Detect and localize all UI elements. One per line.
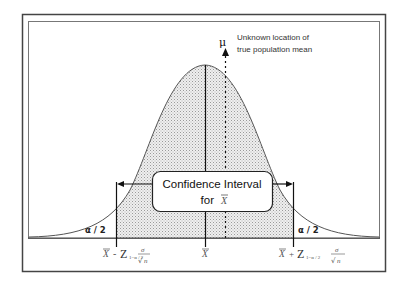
left-tail-label: α / 2 (85, 225, 106, 235)
sample-mean-label: X (201, 249, 209, 259)
svg-text:σ: σ (141, 246, 145, 254)
arrow-right-icon (286, 181, 293, 187)
svg-text:-: - (113, 248, 116, 259)
svg-text:+: + (289, 249, 294, 259)
svg-text:n: n (337, 257, 341, 265)
svg-text:Z: Z (120, 247, 127, 261)
svg-text:√: √ (331, 257, 336, 265)
svg-text:X: X (201, 249, 209, 259)
svg-text:X: X (102, 249, 110, 259)
lower-bound-label: X - Z 1−α / 2 σ √ n (102, 246, 150, 265)
mu-symbol: μ (219, 36, 226, 49)
mu-arrow-icon (222, 48, 229, 56)
svg-text:n: n (144, 257, 148, 265)
upper-bound-label: X + Z 1−α / 2 σ √ n (278, 246, 345, 265)
svg-text:X: X (278, 249, 286, 259)
arrow-left-icon (117, 181, 124, 187)
ci-label-line2-prefix: for (201, 194, 215, 206)
right-tail-label: α / 2 (298, 225, 319, 235)
svg-text:1−α / 2: 1−α / 2 (306, 255, 321, 260)
ci-label-xbar: X (220, 195, 228, 206)
svg-text:√: √ (138, 257, 143, 265)
confidence-interval-diagram: Confidence Interval for X μ Unknown loca… (0, 0, 407, 285)
svg-text:σ: σ (335, 246, 339, 254)
mu-note-line1: Unknown location of (237, 33, 310, 42)
svg-text:Z: Z (297, 247, 304, 261)
ci-label-line1: Confidence Interval (162, 178, 261, 190)
mu-note-line2: true population mean (237, 45, 312, 54)
